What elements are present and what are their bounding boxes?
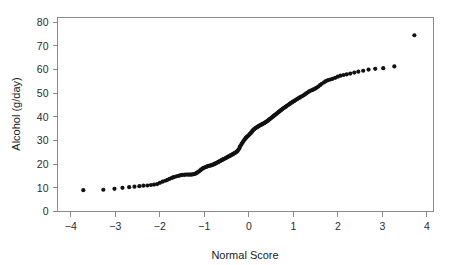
x-axis-ticks: −4−3−2−101234 — [65, 212, 430, 232]
data-point — [366, 67, 370, 71]
y-tick-label: 80 — [37, 16, 49, 28]
scatter-points — [81, 33, 416, 192]
y-tick-label: 40 — [37, 111, 49, 123]
data-point — [361, 69, 365, 73]
y-tick-label: 10 — [37, 182, 49, 194]
data-point — [81, 188, 85, 192]
x-tick-label: 0 — [246, 220, 252, 232]
y-tick-label: 0 — [43, 205, 49, 217]
x-tick-label: 2 — [335, 220, 341, 232]
data-point — [392, 64, 396, 68]
y-tick-label: 20 — [37, 158, 49, 170]
qq-plot-figure: −4−3−2−101234 01020304050607080 Normal S… — [0, 0, 458, 265]
data-point — [127, 185, 131, 189]
y-tick-label: 60 — [37, 63, 49, 75]
data-point — [345, 72, 349, 76]
data-point — [132, 185, 136, 189]
data-point — [412, 33, 416, 37]
x-tick-label: −3 — [109, 220, 121, 232]
data-point — [352, 71, 356, 75]
chart-canvas: −4−3−2−101234 01020304050607080 Normal S… — [0, 0, 458, 265]
data-point — [145, 183, 149, 187]
plot-frame — [58, 18, 434, 212]
y-tick-label: 50 — [37, 87, 49, 99]
x-tick-label: −1 — [198, 220, 210, 232]
data-point — [112, 187, 116, 191]
y-axis-title: Alcohol (g/day) — [10, 77, 22, 150]
data-point — [120, 186, 124, 190]
x-tick-label: −4 — [65, 220, 77, 232]
x-tick-label: 4 — [424, 220, 430, 232]
data-point — [101, 188, 105, 192]
x-axis-title: Normal Score — [211, 249, 278, 261]
data-point — [137, 184, 141, 188]
data-point — [381, 66, 385, 70]
y-axis-ticks: 01020304050607080 — [37, 16, 58, 217]
y-tick-label: 70 — [37, 40, 49, 52]
data-point — [356, 70, 360, 74]
data-point — [373, 67, 377, 71]
data-point — [141, 184, 145, 188]
x-tick-label: −2 — [154, 220, 166, 232]
data-point — [348, 71, 352, 75]
x-tick-label: 3 — [379, 220, 385, 232]
x-tick-label: 1 — [290, 220, 296, 232]
y-tick-label: 30 — [37, 134, 49, 146]
